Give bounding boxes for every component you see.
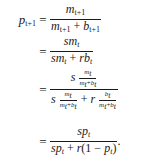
inner-fraction: mt mt+bt — [60, 90, 77, 111]
equals-sign: = — [36, 82, 50, 98]
lhs-p-t-plus-1: pt+1 — [0, 12, 36, 28]
denominator-2: smt + rbt — [50, 52, 93, 68]
numerator-3: s mt mt+bt — [70, 68, 99, 89]
inner-fraction: bt mt+bt — [99, 90, 116, 111]
trailing-period: . — [117, 134, 120, 149]
equals-sign: = — [36, 12, 50, 28]
equation-line-1: pt+1 = mt+1 mt+1 + bt+1 — [0, 3, 101, 36]
numerator-1: mt+1 — [65, 3, 86, 19]
equation-line-3: = s mt mt+bt s mt mt+bt + r bt mt+bt — [0, 68, 118, 111]
inner-fraction: mt mt+bt — [79, 68, 96, 89]
equation-line-2: = smt smt + rbt — [0, 35, 93, 68]
denominator-4: spt + r(1 − pt) — [50, 142, 117, 158]
numerator-4: spt — [76, 125, 91, 141]
fraction-1: mt+1 mt+1 + bt+1 — [50, 3, 101, 36]
numerator-2: smt — [63, 35, 81, 51]
fraction-4: spt spt + r(1 − pt) — [50, 125, 117, 158]
fraction-2: smt smt + rbt — [50, 35, 93, 68]
equals-sign: = — [36, 134, 50, 150]
equals-sign: = — [36, 44, 50, 60]
denominator-3: s mt mt+bt + r bt mt+bt — [50, 90, 118, 111]
equation-line-4: = spt spt + r(1 − pt) . — [0, 125, 120, 158]
fraction-3: s mt mt+bt s mt mt+bt + r bt mt+bt — [50, 68, 118, 111]
